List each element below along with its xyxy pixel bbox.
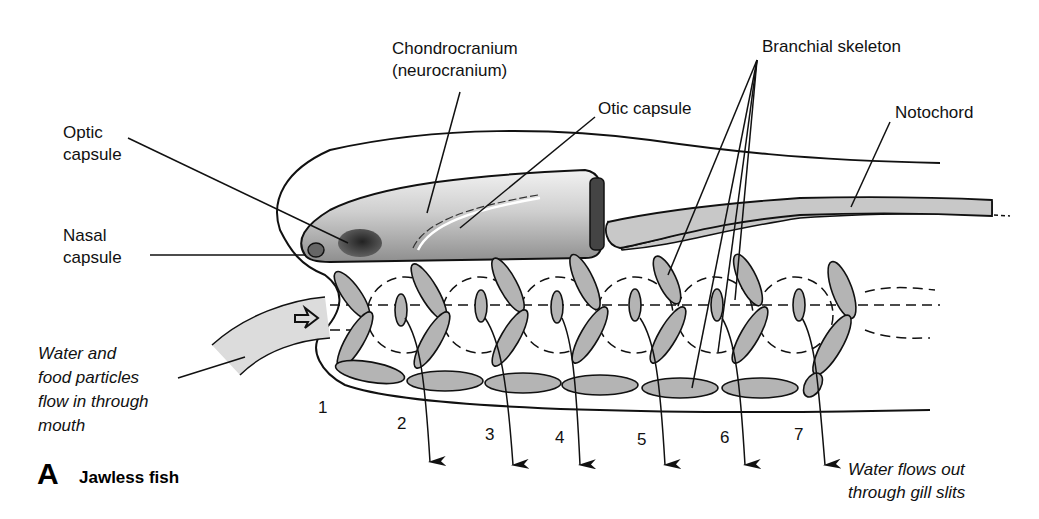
gill-number-5: 5 xyxy=(637,430,646,450)
optic-capsule xyxy=(338,229,382,257)
jawless-fish-diagram xyxy=(0,0,1039,519)
label-optic-line2: capsule xyxy=(63,144,122,166)
label-water-out-line1: Water flows out xyxy=(848,458,965,481)
label-water-in-line3: flow in through xyxy=(38,390,149,414)
label-nasal-line2: capsule xyxy=(63,247,122,269)
panel-title: Jawless fish xyxy=(79,468,179,488)
label-chondrocranium-line1: Chondrocranium xyxy=(392,38,518,60)
chondrocranium xyxy=(301,170,604,262)
label-branchial-skeleton: Branchial skeleton xyxy=(762,36,901,58)
gill-number-6: 6 xyxy=(720,428,729,448)
label-water-in-line1: Water and xyxy=(38,342,149,366)
label-chondrocranium-line2: (neurocranium) xyxy=(392,60,518,82)
gill-number-2: 2 xyxy=(397,414,406,434)
label-otic-capsule: Otic capsule xyxy=(598,98,692,120)
label-nasal-capsule: Nasal capsule xyxy=(63,225,122,269)
label-water-inflow: Water and food particles flow in through… xyxy=(38,342,149,438)
gill-number-7: 7 xyxy=(794,425,803,445)
label-water-in-line2: food particles xyxy=(38,366,149,390)
label-water-outflow: Water flows out through gill slits xyxy=(848,458,965,504)
label-optic-line1: Optic xyxy=(63,122,122,144)
label-water-in-line4: mouth xyxy=(38,414,149,438)
panel-letter: A xyxy=(37,457,59,491)
label-notochord: Notochord xyxy=(895,102,973,124)
nasal-capsule xyxy=(308,243,324,257)
gill-number-4: 4 xyxy=(555,428,564,448)
label-chondrocranium: Chondrocranium (neurocranium) xyxy=(392,38,518,82)
water-inflow-stream xyxy=(212,297,330,375)
gill-number-3: 3 xyxy=(485,425,494,445)
label-optic-capsule: Optic capsule xyxy=(63,122,122,166)
label-water-out-line2: through gill slits xyxy=(848,481,965,504)
label-nasal-line1: Nasal xyxy=(63,225,122,247)
gill-number-1: 1 xyxy=(318,398,327,418)
